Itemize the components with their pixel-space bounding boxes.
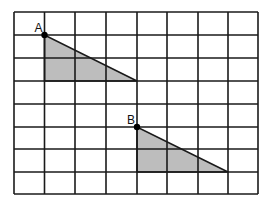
point-label-a: A <box>35 21 43 35</box>
grid-diagram: AB <box>0 0 271 211</box>
point-label-b: B <box>127 113 135 127</box>
